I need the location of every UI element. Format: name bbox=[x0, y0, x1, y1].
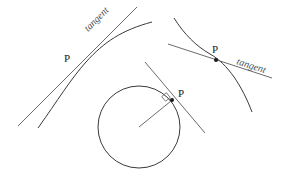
left-tangent-label: tangent bbox=[82, 4, 111, 33]
circle-radius-line bbox=[139, 101, 171, 127]
circle-tangency-point-dot bbox=[170, 98, 174, 102]
right-tangent-label: tangent bbox=[235, 55, 267, 75]
right-point-label: P bbox=[212, 43, 218, 55]
circle-point-label: P bbox=[178, 87, 184, 99]
left-tangent-line bbox=[18, 7, 137, 126]
circle-tangent-line bbox=[145, 62, 205, 133]
left-curve bbox=[38, 22, 152, 128]
circle-group: P bbox=[98, 62, 205, 168]
left-point-label: P bbox=[64, 52, 70, 64]
right-tangency-point-dot bbox=[214, 58, 218, 62]
tangent-diagram: P tangent P tangent P bbox=[0, 0, 284, 181]
left-curve-group: P tangent bbox=[18, 4, 152, 128]
